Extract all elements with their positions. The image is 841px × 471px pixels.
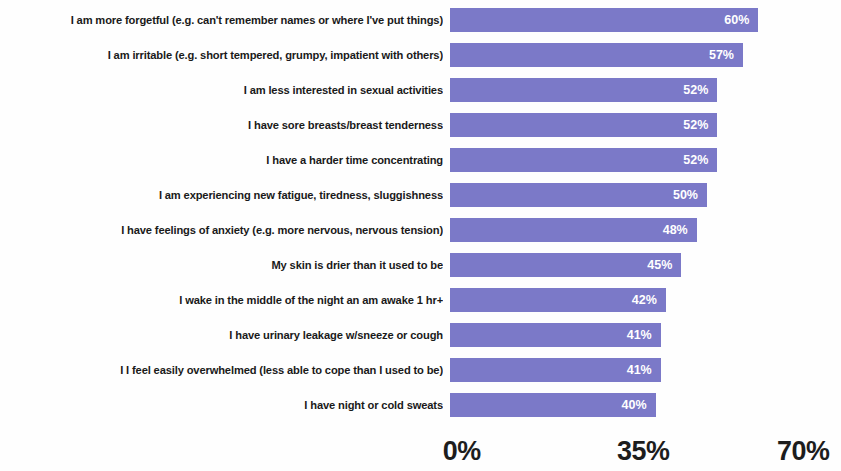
bar-row: I am irritable (e.g. short tempered, gru… bbox=[0, 43, 841, 67]
bar-value-label: 42% bbox=[632, 288, 666, 312]
bar-row: I have sore breasts/breast tenderness52% bbox=[0, 113, 841, 137]
category-label: I am less interested in sexual activitie… bbox=[15, 78, 443, 102]
bar-track: 52% bbox=[450, 148, 841, 172]
bar-row: I I feel easily overwhelmed (less able t… bbox=[0, 358, 841, 382]
x-axis-tick-70: 70% bbox=[777, 430, 829, 471]
bar-value-label: 57% bbox=[709, 43, 743, 67]
bar-value-label: 45% bbox=[647, 253, 681, 277]
bar-value-label: 60% bbox=[724, 8, 758, 32]
bar-value-label: 41% bbox=[627, 323, 661, 347]
bar-row: I am more forgetful (e.g. can't remember… bbox=[0, 8, 841, 32]
bar-track: 52% bbox=[450, 78, 841, 102]
bar: 40% bbox=[450, 393, 656, 417]
bar-row: I wake in the middle of the night an am … bbox=[0, 288, 841, 312]
bar: 52% bbox=[450, 113, 717, 137]
bar: 57% bbox=[450, 43, 743, 67]
category-label: I am experiencing new fatigue, tiredness… bbox=[15, 183, 443, 207]
chart-plot-area: I am more forgetful (e.g. can't remember… bbox=[0, 0, 841, 432]
category-label: I have feelings of anxiety (e.g. more ne… bbox=[15, 218, 443, 242]
bar: 48% bbox=[450, 218, 697, 242]
bar-value-label: 50% bbox=[673, 183, 707, 207]
x-axis: 0% 35% 70% bbox=[0, 430, 841, 471]
x-axis-tick-35: 35% bbox=[617, 430, 669, 471]
bar: 50% bbox=[450, 183, 707, 207]
bar-row: My skin is drier than it used to be45% bbox=[0, 253, 841, 277]
bar-track: 60% bbox=[450, 8, 841, 32]
category-label: My skin is drier than it used to be bbox=[15, 253, 443, 277]
horizontal-bar-chart: I am more forgetful (e.g. can't remember… bbox=[0, 0, 841, 471]
category-label: I have night or cold sweats bbox=[15, 393, 443, 417]
category-label: I have sore breasts/breast tenderness bbox=[15, 113, 443, 137]
bar-value-label: 52% bbox=[683, 78, 717, 102]
category-label: I am irritable (e.g. short tempered, gru… bbox=[15, 43, 443, 67]
bar-row: I am experiencing new fatigue, tiredness… bbox=[0, 183, 841, 207]
x-axis-tick-0: 0% bbox=[443, 430, 481, 471]
bar-row: I have a harder time concentrating52% bbox=[0, 148, 841, 172]
bar-row: I have night or cold sweats40% bbox=[0, 393, 841, 417]
bar: 52% bbox=[450, 148, 717, 172]
bar-value-label: 52% bbox=[683, 148, 717, 172]
bar-track: 48% bbox=[450, 218, 841, 242]
category-label: I I feel easily overwhelmed (less able t… bbox=[15, 358, 443, 382]
bar-track: 40% bbox=[450, 393, 841, 417]
bar-value-label: 40% bbox=[622, 393, 656, 417]
bar-track: 50% bbox=[450, 183, 841, 207]
bar: 41% bbox=[450, 323, 661, 347]
category-label: I wake in the middle of the night an am … bbox=[15, 288, 443, 312]
category-label: I have a harder time concentrating bbox=[15, 148, 443, 172]
bar-track: 41% bbox=[450, 323, 841, 347]
bar-track: 57% bbox=[450, 43, 841, 67]
bar: 52% bbox=[450, 78, 717, 102]
bar-track: 41% bbox=[450, 358, 841, 382]
category-label: I have urinary leakage w/sneeze or cough bbox=[15, 323, 443, 347]
bar: 41% bbox=[450, 358, 661, 382]
bar-value-label: 48% bbox=[663, 218, 697, 242]
bar: 42% bbox=[450, 288, 666, 312]
bar-row: I have urinary leakage w/sneeze or cough… bbox=[0, 323, 841, 347]
bar-track: 52% bbox=[450, 113, 841, 137]
bar-row: I am less interested in sexual activitie… bbox=[0, 78, 841, 102]
bar-value-label: 41% bbox=[627, 358, 661, 382]
category-label: I am more forgetful (e.g. can't remember… bbox=[15, 8, 443, 32]
bar: 45% bbox=[450, 253, 681, 277]
bar-track: 42% bbox=[450, 288, 841, 312]
bar-row: I have feelings of anxiety (e.g. more ne… bbox=[0, 218, 841, 242]
bar-track: 45% bbox=[450, 253, 841, 277]
bar: 60% bbox=[450, 8, 758, 32]
bar-value-label: 52% bbox=[683, 113, 717, 137]
